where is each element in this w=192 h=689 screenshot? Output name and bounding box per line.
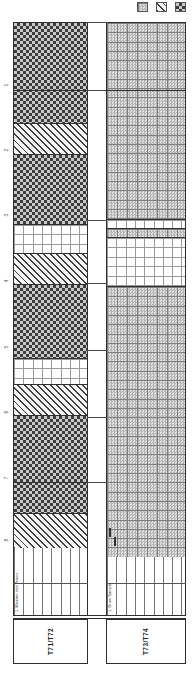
correlation-line: [87, 283, 107, 284]
column-title-left: T71/T72: [47, 628, 54, 655]
left-section-checker: [14, 415, 87, 513]
right-section-grid: [107, 219, 185, 228]
footer-divider-line: [13, 583, 88, 584]
column-title-right: T73/T74: [142, 628, 149, 655]
left-section-grid: [14, 224, 87, 253]
checker-pattern-swatch-icon: [175, 2, 186, 12]
footer-divider-line: [106, 583, 186, 584]
diagonal-hatch-swatch-icon: [156, 2, 167, 12]
depth-tick-label: 6: [1, 408, 11, 417]
depth-tick-label: 7: [1, 474, 11, 483]
right-section-grid: [107, 237, 185, 286]
sample-mark: [109, 528, 111, 537]
column-title-box-right: T73/T74: [106, 619, 186, 664]
log-column-left: [13, 22, 88, 549]
layer-boundary-line: [13, 482, 87, 483]
column-note-right: 1. Drum Sample: [108, 560, 112, 612]
right-section-fabric: [107, 23, 185, 219]
left-section-checker: [14, 154, 87, 224]
correlation-line: [87, 482, 107, 483]
correlation-line: [87, 350, 107, 351]
right-section-fabric: [107, 286, 185, 557]
depth-tick-label: 2: [1, 146, 11, 155]
left-section-checker: [14, 23, 87, 123]
left-section-hatch: [14, 123, 87, 154]
depth-tick-label: 3: [1, 211, 11, 220]
fabric-pattern-swatch-icon: [137, 2, 148, 12]
log-column-right: [106, 22, 186, 558]
depth-tick-label: 4: [1, 277, 11, 286]
sample-mark: [114, 537, 116, 546]
correlation-line: [87, 220, 107, 221]
correlation-figure: 12345678 1. Monster met Tonen 1. Drum Sa…: [0, 0, 192, 689]
depth-tick-label: 5: [1, 343, 11, 352]
left-section-checker: [14, 284, 87, 359]
column-note-left: 1. Monster met Tonen: [15, 552, 19, 612]
left-section-hatch: [14, 513, 87, 548]
depth-tick-label: 1: [1, 81, 11, 90]
left-section-hatch: [14, 384, 87, 415]
left-section-hatch: [14, 253, 87, 284]
layer-boundary-line: [106, 90, 186, 91]
double-rule-top: [13, 615, 186, 616]
right-section-fabric: [107, 228, 185, 237]
correlation-line: [87, 90, 107, 91]
left-section-grid: [14, 358, 87, 384]
layer-boundary-line: [13, 90, 87, 91]
depth-tick-label: 8: [1, 536, 11, 545]
top-border-line: [87, 22, 107, 23]
column-title-box-left: T71/T72: [13, 619, 88, 664]
ruled-footer-left: [13, 548, 88, 615]
correlation-line: [87, 417, 107, 418]
ruled-footer-right: [106, 557, 186, 615]
